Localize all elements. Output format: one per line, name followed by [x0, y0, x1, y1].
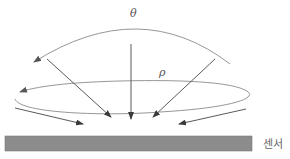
theta-arc-arrow-icon	[34, 29, 230, 64]
rho-ellipse	[15, 81, 249, 114]
ray-arrow-icon	[47, 59, 111, 117]
theta-label: θ	[130, 7, 137, 20]
ray-arrow-icon	[179, 109, 246, 124]
rho-ellipse-arrow-icon	[15, 81, 249, 114]
sensor-label: 센서	[263, 138, 283, 151]
rho-label: ρ	[158, 66, 166, 79]
incident-rays	[15, 44, 246, 124]
sensor-incidence-diagram: θ ρ 센서	[0, 0, 290, 159]
theta-arc	[34, 29, 230, 64]
sensor-plate	[5, 136, 252, 151]
